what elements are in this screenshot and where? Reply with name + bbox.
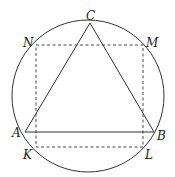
label-m: M (145, 36, 159, 50)
circumscribed-circle (12, 20, 164, 172)
label-k: K (22, 148, 33, 162)
triangle-abc (25, 23, 154, 132)
label-l: L (144, 148, 153, 162)
label-n: N (22, 36, 34, 50)
label-a: A (11, 126, 21, 140)
geometry-diagram: C N M A B K L (0, 0, 175, 177)
label-c: C (86, 9, 95, 23)
label-b: B (156, 129, 166, 143)
